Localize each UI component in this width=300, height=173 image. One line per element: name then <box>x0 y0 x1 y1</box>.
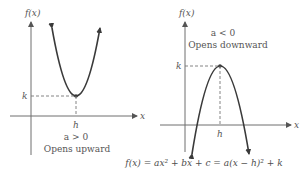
right-k-label: k <box>176 61 181 71</box>
left-condition: a > 0 <box>64 132 89 142</box>
right-y-axis-label: f(x) <box>178 8 195 18</box>
left-k-label: k <box>22 91 27 101</box>
parabola-vertex-form-diagram: f(x) x k h a > 0 Opens upward f(x) x k h… <box>0 0 300 173</box>
left-y-axis-label: f(x) <box>24 8 41 18</box>
right-condition: a < 0 <box>211 28 236 38</box>
left-h-label: h <box>73 120 79 130</box>
right-x-axis-label: x <box>294 120 299 130</box>
right-description: Opens downward <box>188 40 268 50</box>
right-graph: f(x) x k h a < 0 Opens downward <box>160 8 299 154</box>
left-x-axis-label: x <box>140 111 145 121</box>
left-parabola-upward <box>52 28 100 96</box>
vertex-form-formula: f(x) = ax² + bx + c = a(x − h)² + k <box>124 158 282 168</box>
right-h-label: h <box>217 129 223 139</box>
left-graph: f(x) x k h a > 0 Opens upward <box>10 8 145 155</box>
left-description: Opens upward <box>44 144 111 154</box>
right-parabola-downward <box>192 66 249 154</box>
